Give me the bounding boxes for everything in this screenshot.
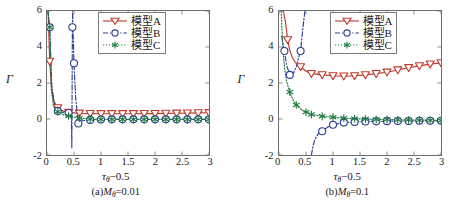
x-tick-label: 1 <box>329 156 334 167</box>
legend-item-model-c[interactable]: 模型C <box>102 39 161 51</box>
legend-swatch-model-c <box>102 39 128 51</box>
x-axis-title-b: τθ−0.5 <box>232 170 463 184</box>
legend-item-model-a[interactable]: 模型A <box>102 15 161 27</box>
x-tick-label: 0.5 <box>67 156 80 167</box>
x-axis-title-a: τθ−0.5 <box>0 170 232 184</box>
legend-item-model-a[interactable]: 模型A <box>334 15 393 27</box>
legend-label-model-b: 模型B <box>128 27 160 39</box>
legend-b[interactable]: 模型A 模型B 模型C <box>330 12 398 54</box>
y-tick-label: 4 <box>236 41 274 51</box>
legend-swatch-model-b <box>334 27 360 39</box>
panel-b-caption: (b)Mθ=0.1 <box>232 186 463 199</box>
legend-swatch-model-b <box>102 27 128 39</box>
x-tick-label: 0 <box>43 156 48 167</box>
legend-swatch-model-a <box>102 15 128 27</box>
y-tick-label: 0 <box>236 114 274 124</box>
panel-a-caption: (a)Mθ=0.01 <box>0 186 232 199</box>
x-tick-label: 2 <box>384 156 389 167</box>
legend-label-model-a: 模型A <box>360 15 393 27</box>
legend-label-model-c: 模型C <box>360 39 392 51</box>
x-tick-label: 3 <box>207 156 212 167</box>
legend-item-model-b[interactable]: 模型B <box>334 27 393 39</box>
legend-label-model-c: 模型C <box>128 39 160 51</box>
x-tick-label: 1.5 <box>121 156 134 167</box>
y-axis-title-a: Γ <box>6 72 13 87</box>
legend-swatch-model-c <box>334 39 360 51</box>
x-tick-label: 2.5 <box>176 156 189 167</box>
x-tick-label: 2.5 <box>408 156 421 167</box>
y-tick-label: 4 <box>4 41 42 51</box>
caption-prefix: (b) <box>325 186 337 197</box>
x-tick-label: 1.5 <box>353 156 366 167</box>
x-tick-label: 2 <box>153 156 158 167</box>
x-axis-offset-text: −0.5 <box>341 170 361 182</box>
chart-panel-a: 6 4 2 0 -2 Γ 0 0.5 1 1.5 2 2.5 3 τθ−0.5 … <box>0 0 232 206</box>
x-tick-label: 0.5 <box>298 156 311 167</box>
legend-label-model-b: 模型B <box>360 27 392 39</box>
legend-label-model-a: 模型A <box>128 15 161 27</box>
x-tick-label: 0 <box>275 156 280 167</box>
x-tick-label: 3 <box>439 156 444 167</box>
legend-item-model-b[interactable]: 模型B <box>102 27 161 39</box>
x-tick-label: 1 <box>98 156 103 167</box>
y-tick-label: 6 <box>4 5 42 15</box>
x-axis-offset-text: −0.5 <box>110 170 130 182</box>
chart-panel-b: 6 4 2 0 -2 Γ 0 0.5 1 1.5 2 2.5 3 τθ−0.5 … <box>232 0 463 206</box>
caption-value: =0.01 <box>116 186 140 197</box>
caption-value: =0.1 <box>350 186 369 197</box>
legend-a[interactable]: 模型A 模型B 模型C <box>98 12 166 54</box>
figure-root: 6 4 2 0 -2 Γ 0 0.5 1 1.5 2 2.5 3 τθ−0.5 … <box>0 0 463 206</box>
legend-swatch-model-a <box>334 15 360 27</box>
y-tick-label: 6 <box>236 5 274 15</box>
caption-m-symbol: M <box>103 186 112 197</box>
caption-prefix: (a) <box>92 186 104 197</box>
y-axis-title-b: Γ <box>238 72 245 87</box>
legend-item-model-c[interactable]: 模型C <box>334 39 393 51</box>
y-tick-label: 0 <box>4 114 42 124</box>
